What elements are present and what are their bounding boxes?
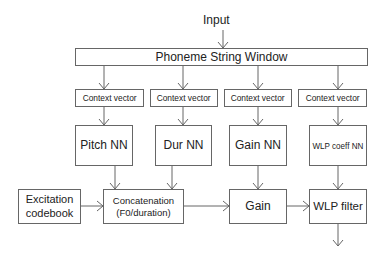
excitation-line-1: Excitation	[26, 193, 74, 206]
context-vector-label: Context vector	[157, 92, 211, 103]
phoneme-window-label: Phoneme String Window	[155, 50, 287, 64]
gain-nn-label: Gain NN	[235, 138, 281, 152]
wlp-coeff-nn-box: WLP coeff NN	[309, 125, 367, 166]
context-vector-1: Context vector	[75, 89, 144, 107]
context-vector-2: Context vector	[150, 89, 218, 107]
context-vector-3: Context vector	[224, 89, 292, 107]
excitation-line-2: codebook	[26, 207, 74, 220]
phoneme-string-window: Phoneme String Window	[75, 48, 368, 66]
gain-label: Gain	[245, 199, 270, 213]
dur-nn-box: Dur NN	[155, 125, 212, 166]
context-vector-label: Context vector	[306, 92, 360, 103]
context-vector-label: Context vector	[231, 92, 285, 103]
context-vector-label: Context vector	[83, 92, 137, 103]
wlp-coeff-nn-label: WLP coeff NN	[313, 140, 364, 151]
context-vector-4: Context vector	[298, 89, 367, 107]
concatenation-line-2: (F0/duration)	[116, 207, 170, 218]
wlp-filter-label: WLP filter	[313, 200, 363, 214]
wlp-filter-box: WLP filter	[309, 189, 367, 224]
excitation-codebook-box: Excitation codebook	[18, 189, 81, 224]
input-label: Input	[203, 13, 230, 27]
pitch-nn-box: Pitch NN	[75, 125, 133, 166]
concatenation-line-1: Concatenation	[113, 195, 174, 206]
pitch-nn-label: Pitch NN	[80, 138, 127, 152]
dur-nn-label: Dur NN	[163, 138, 203, 152]
gain-box: Gain	[229, 189, 287, 224]
concatenation-box: Concatenation (F0/duration)	[103, 189, 184, 224]
gain-nn-box: Gain NN	[229, 125, 287, 166]
